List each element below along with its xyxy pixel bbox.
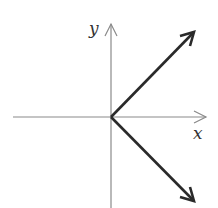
- y-axis-label: y: [88, 18, 99, 38]
- upper-vector: [111, 32, 194, 117]
- x-axis: [13, 111, 206, 123]
- vector-diagram: y x: [0, 0, 218, 208]
- x-axis-label: x: [193, 123, 203, 143]
- lower-vector: [111, 117, 194, 201]
